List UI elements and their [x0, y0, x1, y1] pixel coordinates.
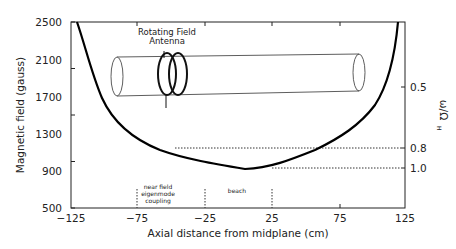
svg-text:1300: 1300	[35, 128, 62, 140]
svg-text:25: 25	[265, 212, 278, 224]
svg-text:1700: 1700	[35, 91, 62, 103]
y2-axis-title: ω/Ω H	[436, 100, 450, 131]
x-axis-title: Axial distance from midplane (cm)	[147, 227, 328, 239]
y2-axis-ticks	[401, 87, 405, 168]
y-tick-labels: 2500 2100 1700 1300 900 500	[35, 16, 62, 214]
magnetic-field-chart: 2500 2100 1700 1300 900 500 −125 −75 −25…	[0, 0, 456, 249]
svg-text:1.0: 1.0	[410, 162, 427, 174]
plot-frame	[71, 22, 405, 208]
antenna-label: Rotating Field Antenna	[138, 27, 196, 46]
svg-text:ω/Ω: ω/Ω	[438, 100, 450, 120]
rotating-field-antenna	[158, 51, 187, 108]
y2-tick-labels: 0.5 0.8 1.0	[410, 81, 427, 174]
beach-label: beach	[228, 187, 246, 194]
svg-text:−125: −125	[57, 212, 86, 224]
svg-text:−75: −75	[126, 212, 148, 224]
plasma-chamber-cylinder	[111, 54, 365, 96]
svg-text:H: H	[436, 126, 443, 131]
svg-text:0.8: 0.8	[410, 142, 427, 154]
svg-text:900: 900	[42, 165, 62, 177]
svg-text:2500: 2500	[35, 16, 62, 28]
top-axis-ticks	[137, 22, 340, 26]
svg-text:coupling: coupling	[145, 197, 171, 205]
svg-text:0.5: 0.5	[410, 81, 427, 93]
svg-text:Antenna: Antenna	[149, 36, 185, 46]
y-axis-title: Magnetic field (gauss)	[14, 57, 26, 173]
svg-text:125: 125	[395, 212, 415, 224]
x-tick-labels: −125 −75 −25 25 75 125	[57, 212, 415, 224]
svg-text:75: 75	[333, 212, 346, 224]
svg-text:near field: near field	[144, 183, 173, 190]
svg-text:2100: 2100	[35, 54, 62, 66]
near-field-label: near field eigenmode coupling	[141, 183, 175, 205]
y-axis-ticks	[71, 22, 75, 208]
svg-text:−25: −25	[194, 212, 216, 224]
